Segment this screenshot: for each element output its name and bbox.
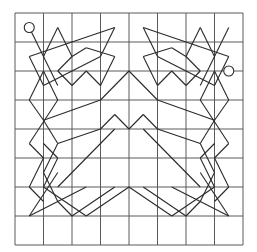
path-segment <box>58 57 72 72</box>
path-segment <box>129 71 158 100</box>
path-segment <box>186 57 200 72</box>
path-segment <box>200 120 214 143</box>
path-segment <box>215 144 229 159</box>
end-circle-icon <box>224 66 234 76</box>
path-segment <box>101 115 115 130</box>
path-segment <box>58 202 72 217</box>
path-segment <box>115 115 129 130</box>
path-segment <box>44 71 58 100</box>
path-segment <box>186 202 200 217</box>
path-segment <box>44 144 58 159</box>
path-segment <box>29 100 43 120</box>
path-segment <box>172 187 215 216</box>
path-segment <box>143 115 157 130</box>
path-puzzle-board <box>0 0 257 252</box>
path-segment <box>86 71 100 86</box>
path-segment <box>158 71 172 86</box>
path-segment <box>200 71 214 100</box>
path-segment <box>215 187 229 202</box>
path-segment <box>186 71 200 86</box>
path-segment <box>158 129 201 144</box>
path-segment <box>29 71 43 100</box>
path-segment <box>172 48 186 57</box>
path-segment <box>215 100 229 120</box>
start-circle-icon <box>24 23 34 33</box>
path-segment <box>44 187 87 216</box>
path-segment <box>172 71 186 86</box>
path-segment <box>29 187 43 202</box>
path-segment <box>58 129 101 144</box>
path-segment <box>72 48 86 57</box>
path-segment <box>72 71 86 86</box>
path-segment <box>101 71 130 100</box>
path-segment <box>129 115 143 130</box>
path-segment <box>29 158 43 187</box>
path-segment <box>58 71 72 86</box>
path-segment <box>200 144 214 159</box>
path-segment <box>215 158 229 187</box>
path-segment <box>29 144 43 159</box>
path-segment <box>44 120 58 143</box>
